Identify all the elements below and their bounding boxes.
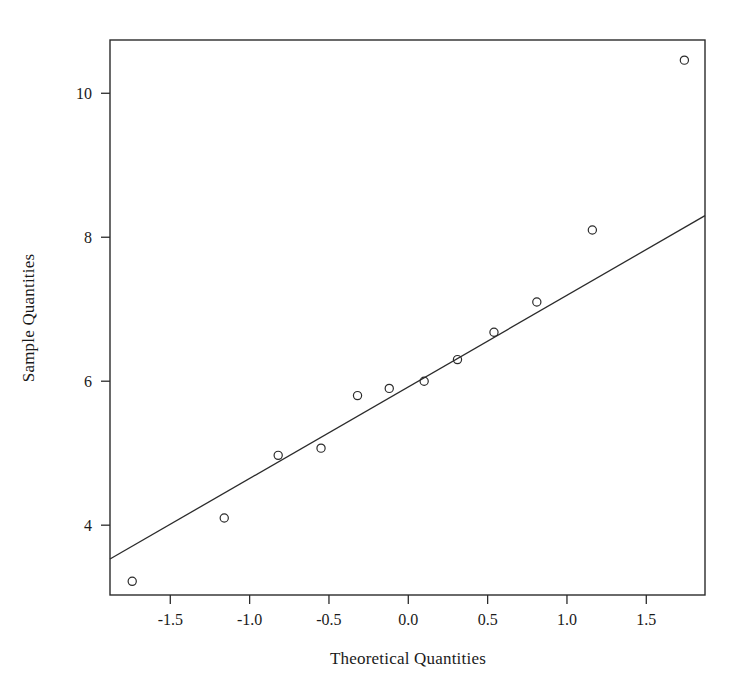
qq-plot-canvas: 10864 -1.5-1.0-0.50.00.51.01.5 Theoretic… bbox=[0, 0, 744, 697]
x-tick-label: 1.5 bbox=[636, 611, 656, 628]
x-tick-label: 1.0 bbox=[557, 611, 577, 628]
figure-background bbox=[0, 0, 744, 697]
y-tick-label: 6 bbox=[84, 373, 92, 390]
qq-plot-figure: 10864 -1.5-1.0-0.50.00.51.01.5 Theoretic… bbox=[0, 0, 744, 697]
y-tick-label: 8 bbox=[84, 229, 92, 246]
x-tick-label: -1.5 bbox=[158, 611, 183, 628]
x-tick-label: -0.5 bbox=[316, 611, 341, 628]
x-tick-label: -1.0 bbox=[237, 611, 262, 628]
x-tick-label: 0.5 bbox=[478, 611, 498, 628]
y-tick-label: 10 bbox=[76, 85, 92, 102]
y-tick-label: 4 bbox=[84, 517, 92, 534]
y-axis-title: Sample Quantities bbox=[19, 254, 38, 383]
x-axis-title: Theoretical Quantities bbox=[330, 649, 486, 668]
x-tick-label: 0.0 bbox=[398, 611, 418, 628]
